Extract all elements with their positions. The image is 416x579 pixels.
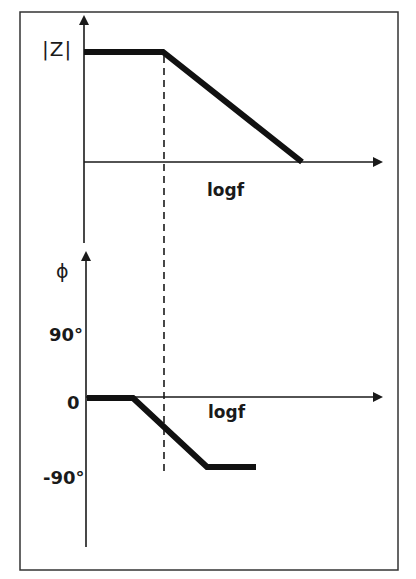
magnitude-x-axis-label: logf: [207, 182, 244, 199]
phase-tick-0: 0: [67, 394, 80, 412]
bode-diagram: |Z| logf ϕ 90° 0 -90° logf: [0, 0, 416, 579]
phase-tick-90: 90°: [49, 326, 83, 344]
bode-diagram-canvas: [0, 0, 416, 579]
magnitude-curve: [84, 52, 302, 162]
magnitude-axis-label: |Z|: [42, 39, 72, 59]
phase-tick-minus-90: -90°: [43, 469, 85, 487]
phase-axis-label: ϕ: [56, 262, 69, 281]
phase-x-axis-label: logf: [208, 404, 245, 421]
